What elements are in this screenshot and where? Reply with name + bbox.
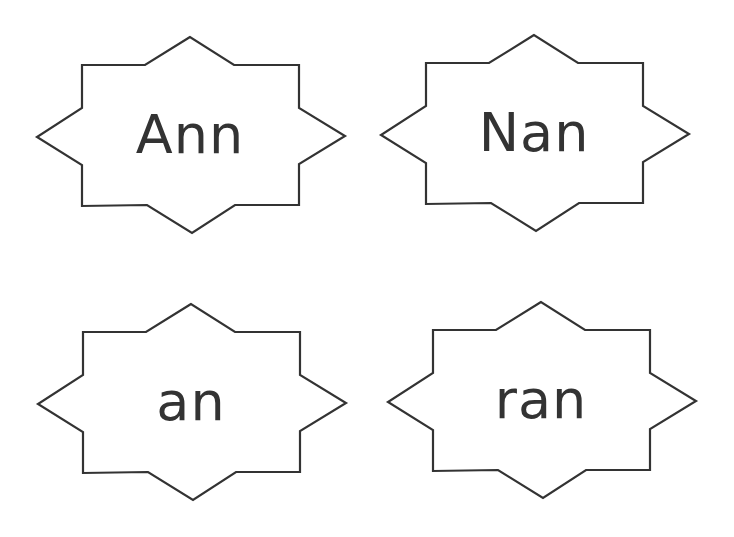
word-card-an: an: [31, 297, 351, 507]
word-card-ran: ran: [381, 295, 701, 505]
word-card-nan: Nan: [374, 28, 694, 238]
word-label: an: [31, 297, 351, 507]
word-card-ann: Ann: [30, 30, 350, 240]
word-label: Nan: [374, 28, 694, 238]
word-label: Ann: [30, 30, 350, 240]
word-label: ran: [381, 295, 701, 505]
